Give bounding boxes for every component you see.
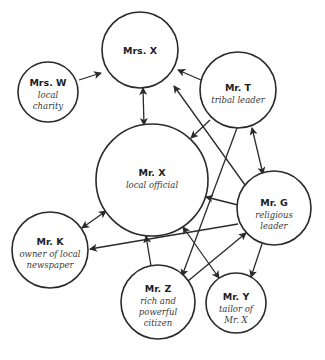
- node-name: Mr. K: [36, 236, 64, 247]
- node-description: owner of local: [19, 249, 80, 259]
- node-description: tribal leader: [211, 95, 265, 105]
- node-name: Mr. Y: [223, 291, 250, 302]
- edge-mr-g-to-mr-x: [206, 197, 238, 205]
- edge-mr-t-to-mrs-x: [178, 70, 201, 80]
- node-mrs-w: Mrs. W local charity: [18, 62, 78, 122]
- node-description: local official: [126, 180, 178, 190]
- edge-mr-z-to-mr-x: [146, 236, 151, 266]
- influence-network-diagram: Mrs. X Mrs. W local charity Mr. T tribal…: [0, 0, 325, 360]
- node-description: powerful: [139, 307, 178, 317]
- node-name: Mrs. W: [29, 77, 67, 88]
- node-mr-k: Mr. K owner of local newspaper: [12, 212, 88, 288]
- node-description: citizen: [144, 318, 173, 328]
- node-description: Mr. X: [223, 315, 248, 325]
- node-mr-x: Mr. X local official: [96, 124, 208, 236]
- node-name: Mr. G: [260, 197, 288, 208]
- node-name: Mr. Z: [145, 283, 172, 294]
- node-description: charity: [33, 101, 64, 111]
- node-description: religious: [255, 210, 293, 220]
- edge-mr-k-to-mr-x: [82, 211, 106, 228]
- node-mr-y: Mr. Y tailor of Mr. X: [206, 273, 266, 333]
- node-description: tailor of: [219, 304, 255, 314]
- node-mr-g: Mr. G religious leader: [237, 171, 311, 245]
- edge-mrs-x-to-mr-x: [143, 88, 144, 125]
- edge-mrs-w-to-mrs-x: [79, 73, 101, 80]
- nodes-layer: Mrs. X Mrs. W local charity Mr. T tribal…: [12, 12, 311, 339]
- node-description: leader: [260, 221, 288, 231]
- node-description: newspaper: [26, 260, 74, 270]
- node-name: Mr. T: [225, 82, 252, 93]
- node-name: Mr. X: [138, 167, 166, 178]
- edge-mr-g-to-mr-y: [251, 244, 262, 277]
- edge-mr-t-to-mr-g: [252, 128, 263, 174]
- node-circle: [237, 171, 311, 245]
- node-name: Mrs. X: [123, 45, 158, 56]
- node-mrs-x: Mrs. X: [102, 12, 178, 88]
- node-mr-z: Mr. Z rich and powerful citizen: [121, 265, 195, 339]
- node-description: rich and: [140, 296, 176, 306]
- node-description: local: [38, 90, 59, 100]
- node-mr-t: Mr. T tribal leader: [200, 52, 276, 128]
